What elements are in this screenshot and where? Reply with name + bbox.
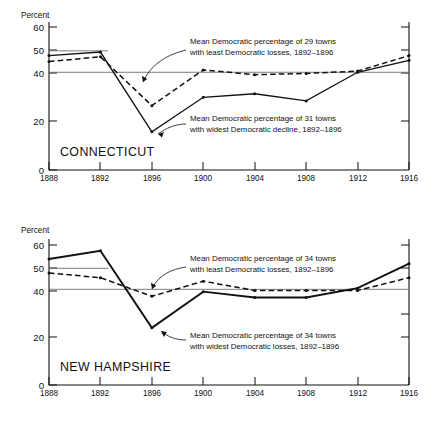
annotation-widest-losses-line1: Mean Democratic percentage of 34 towns — [190, 331, 336, 340]
data-point — [150, 295, 153, 298]
annotation-least-losses: Mean Democratic percentage of 29 towns w… — [142, 37, 336, 82]
data-point — [305, 289, 308, 292]
annotation-least-losses-line2: with least Democratic losses, 1892–1896 — [189, 265, 334, 274]
leader-arrow-widest-losses — [161, 331, 167, 337]
leader-arrow-least-losses — [151, 283, 156, 289]
data-point — [202, 290, 205, 293]
data-point — [356, 70, 359, 73]
annotation-widest-losses: Mean Democratic percentage of 34 towns w… — [161, 331, 340, 351]
state-label-connecticut: CONNECTICUT — [60, 145, 155, 159]
x-tick-label-1892: 1892 — [91, 174, 110, 183]
y-tick-label-50: 50 — [33, 45, 44, 56]
y-tick-label-20: 20 — [33, 116, 44, 127]
y-ticks-right — [401, 245, 409, 337]
data-point — [408, 54, 411, 57]
data-point — [99, 249, 102, 252]
leader-arrow-widest-decline — [158, 132, 164, 137]
x-tick-label-1908: 1908 — [297, 389, 316, 398]
y-tick-label-40: 40 — [33, 286, 44, 297]
y-tick-label-60: 60 — [33, 240, 44, 251]
annotation-least-losses: Mean Democratic percentage of 34 towns w… — [151, 254, 336, 289]
data-point — [253, 289, 256, 292]
y-ticks-left — [49, 27, 57, 170]
y-tick-label-60: 60 — [33, 22, 44, 33]
x-tick-label-1916: 1916 — [400, 389, 419, 398]
leader-line-least-losses — [152, 267, 186, 289]
data-point — [48, 272, 51, 275]
x-tick-label-1916: 1916 — [400, 174, 419, 183]
data-point — [356, 289, 359, 292]
x-tick-label-1896: 1896 — [143, 174, 162, 183]
y-ticks-right — [401, 27, 409, 121]
data-point — [305, 72, 308, 75]
data-point — [99, 55, 102, 58]
x-tick-label-1896: 1896 — [143, 389, 162, 398]
x-tick-label-1900: 1900 — [194, 389, 213, 398]
x-ticks — [49, 377, 409, 385]
data-point — [48, 54, 51, 57]
series-line-dashed — [49, 273, 409, 296]
y-tick-label-40: 40 — [33, 68, 44, 79]
series-line-dashed — [49, 56, 409, 106]
data-point — [150, 104, 153, 107]
x-ticks — [49, 162, 409, 170]
data-point — [253, 92, 256, 95]
annotation-widest-decline: Mean Democratic percentage of 31 towns w… — [158, 114, 342, 137]
data-point — [408, 276, 411, 279]
annotation-widest-decline-line1: Mean Democratic percentage of 31 towns — [190, 114, 336, 123]
x-tick-label-1912: 1912 — [349, 174, 368, 183]
data-point — [150, 130, 153, 133]
y-ticks-left — [49, 245, 57, 385]
x-tick-label-1904: 1904 — [246, 389, 265, 398]
newhampshire-plot: Percent 60 50 40 20 0 — [0, 203, 430, 425]
x-tick-label-1888: 1888 — [40, 174, 59, 183]
data-point — [253, 296, 256, 299]
data-point — [202, 96, 205, 99]
data-point — [408, 59, 411, 62]
x-tick-label-1900: 1900 — [194, 174, 213, 183]
data-point — [408, 262, 411, 265]
data-point — [305, 296, 308, 299]
leader-line-least-losses — [143, 50, 186, 82]
y-tick-label-20: 20 — [33, 332, 44, 343]
chart-newhampshire: Percent 60 50 40 20 0 — [0, 203, 430, 425]
x-tick-label-1888: 1888 — [40, 389, 59, 398]
data-point — [99, 276, 102, 279]
chart-connecticut: Percent 60 50 40 20 0 — [0, 0, 430, 200]
state-label-newhampshire: NEW HAMPSHIRE — [60, 360, 171, 374]
annotation-widest-losses-line2: with widest Democratic losses, 1892–1896 — [189, 342, 340, 351]
connecticut-plot: Percent 60 50 40 20 0 — [0, 0, 430, 200]
x-tick-label-1892: 1892 — [91, 389, 110, 398]
data-point — [48, 60, 51, 63]
annotation-least-losses-line1: Mean Democratic percentage of 29 towns — [190, 37, 336, 46]
data-point — [48, 258, 51, 261]
y-axis-title: Percent — [21, 11, 50, 20]
y-tick-label-50: 50 — [33, 263, 44, 274]
annotation-widest-decline-line2: with widest Democratic decline, 1892–189… — [189, 125, 342, 134]
y-axis-title: Percent — [21, 226, 50, 235]
data-point — [150, 326, 153, 329]
data-point — [202, 280, 205, 283]
x-tick-label-1908: 1908 — [297, 174, 316, 183]
x-tick-label-1912: 1912 — [349, 389, 368, 398]
leader-arrow-least-losses — [142, 76, 147, 82]
data-point — [99, 51, 102, 54]
annotation-least-losses-line2: with least Democratic losses, 1892–1896 — [189, 48, 334, 57]
data-point — [253, 73, 256, 76]
data-point — [305, 99, 308, 102]
x-tick-label-1904: 1904 — [246, 174, 265, 183]
data-point — [202, 68, 205, 71]
annotation-least-losses-line1: Mean Democratic percentage of 34 towns — [190, 254, 336, 263]
